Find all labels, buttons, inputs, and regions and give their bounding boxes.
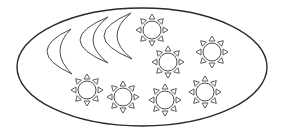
sun-icon [152,46,184,78]
sun-icon [136,14,168,46]
sun-icon [149,84,181,116]
counting-scene [0,0,283,134]
sun-disc [159,53,177,71]
sun-disc [114,88,132,106]
oval-frame [17,8,267,126]
sun-disc [156,91,174,109]
sun-disc [196,83,214,101]
sun-icon [196,36,228,68]
sun-disc [143,21,161,39]
sun-icon [189,76,221,108]
sun-disc [78,81,96,99]
sun-icon [107,81,139,113]
sun-icon [71,74,103,106]
sun-disc [203,43,221,61]
